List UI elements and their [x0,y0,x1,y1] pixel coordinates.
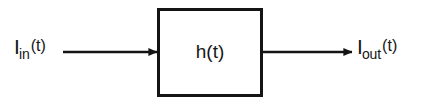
output-signal-label: Iout(t) [357,36,397,57]
output-subscript: out [362,46,381,62]
block-diagram-canvas: Iin(t) h(t) Iout(t) [0,0,428,105]
output-argument: (t) [382,37,397,54]
system-block-label: h(t) [196,41,225,63]
system-block: h(t) [157,8,263,97]
